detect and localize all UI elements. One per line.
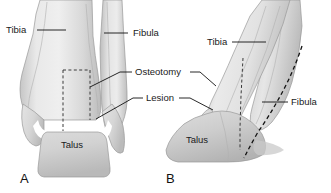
- label-talus-a: Talus: [61, 139, 83, 150]
- panel-letter-a: A: [20, 171, 29, 186]
- label-osteotomy: Osteotomy: [135, 66, 181, 77]
- label-tibia-a: Tibia: [6, 24, 27, 35]
- label-lesion: Lesion: [146, 92, 174, 103]
- panel-letter-b: B: [166, 171, 175, 186]
- label-tibia-b: Tibia: [207, 36, 228, 47]
- label-talus-b: Talus: [186, 134, 208, 145]
- figure-container: A Talus Tibia Fibula: [0, 0, 331, 193]
- label-fibula-a: Fibula: [133, 27, 160, 38]
- label-fibula-b: Fibula: [291, 96, 318, 107]
- anatomy-illustration: A Talus Tibia Fibula: [0, 0, 331, 193]
